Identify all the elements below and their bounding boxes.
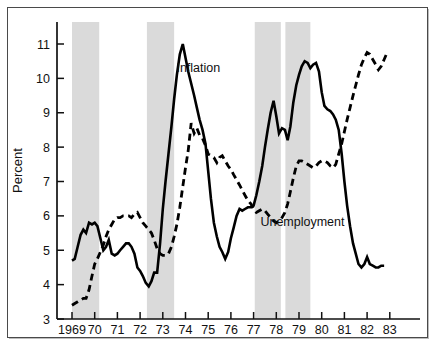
- y-axis-title: Percent: [10, 148, 25, 193]
- chart-axes: [57, 22, 420, 319]
- y-tick-label: 4: [43, 278, 50, 292]
- x-tick-label: 77: [247, 323, 261, 337]
- shaded-band-recession-1969-1970: [72, 22, 99, 319]
- shaded-band-recession-1973-1975: [147, 22, 174, 319]
- shaded-band-recession-1981-1982: [285, 22, 310, 319]
- y-tick-label: 8: [43, 141, 50, 155]
- x-tick-label: 72: [133, 323, 147, 337]
- x-tick-label: 76: [224, 323, 238, 337]
- x-tick-label: 81: [337, 323, 351, 337]
- y-tick-label: 6: [43, 209, 50, 223]
- x-tick-label: 75: [201, 323, 215, 337]
- x-tick-label: 70: [88, 323, 102, 337]
- shaded-band-recession-1980: [255, 22, 281, 319]
- x-tick-label: 73: [156, 323, 170, 337]
- x-tick-label: 71: [110, 323, 124, 337]
- chart-plot: 3456789101119697071727374757677787980818…: [0, 0, 436, 349]
- series-annotation-inflation: Inflation: [176, 61, 220, 75]
- x-tick-label: 83: [383, 323, 397, 337]
- x-tick-label: 80: [315, 323, 329, 337]
- x-tick-label: 78: [269, 323, 283, 337]
- x-tick-label: 74: [179, 323, 193, 337]
- y-tick-label: 9: [43, 106, 50, 120]
- x-tick-label: 1969: [58, 323, 86, 337]
- y-tick-label: 5: [43, 244, 50, 258]
- x-tick-label: 79: [292, 323, 306, 337]
- x-tick-label: 82: [360, 323, 374, 337]
- series-annotation-unemployment: Unemployment: [260, 215, 345, 229]
- chart-axis-titles: Percent: [10, 148, 25, 193]
- y-tick-label: 3: [43, 313, 50, 327]
- y-tick-label: 11: [37, 38, 50, 52]
- y-tick-label: 7: [43, 175, 50, 189]
- chart-ticks: [57, 44, 390, 319]
- chart-figure: 3456789101119697071727374757677787980818…: [0, 0, 436, 349]
- y-tick-label: 10: [36, 72, 50, 86]
- chart-series: [72, 44, 387, 305]
- series-line-unemployment: [72, 53, 387, 306]
